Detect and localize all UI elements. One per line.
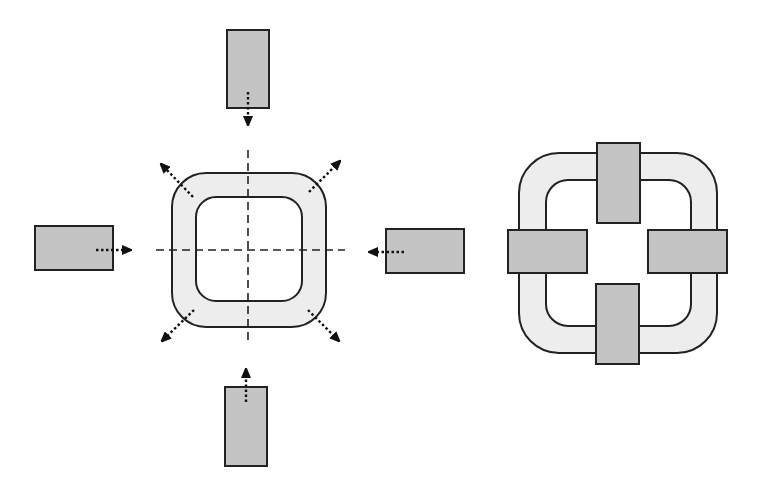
- block-left: [35, 226, 113, 270]
- arrow-top-right-icon: [309, 163, 338, 192]
- block-top: [227, 30, 269, 108]
- block-bottom: [225, 387, 267, 466]
- right-figure: [508, 143, 727, 364]
- left-figure: [35, 30, 464, 466]
- arrow-bottom-right-icon: [308, 310, 337, 339]
- assembled-block-bottom: [596, 284, 639, 364]
- assembled-block-top: [597, 143, 640, 223]
- assembled-block-right: [648, 230, 727, 273]
- assembled-block-left: [508, 230, 587, 273]
- diagram-canvas: [0, 0, 760, 495]
